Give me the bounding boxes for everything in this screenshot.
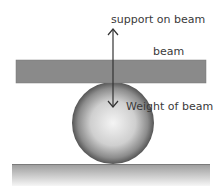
diagram-canvas <box>0 0 221 190</box>
beam <box>16 60 206 83</box>
label-weight-of-beam: Weight of beam <box>126 101 213 112</box>
label-beam: beam <box>153 46 184 57</box>
label-support-on-beam: support on beam <box>111 14 205 25</box>
ground <box>12 164 210 186</box>
